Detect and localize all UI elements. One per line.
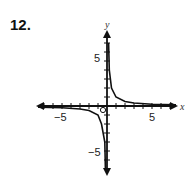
x-axis-label: x <box>179 101 185 112</box>
graph: x y −5 5 5 −5 <box>0 0 195 186</box>
curve-branch-left <box>38 107 105 169</box>
curve-branch-right <box>109 43 176 105</box>
x-tick-label-5: 5 <box>149 111 155 123</box>
y-axis-label: y <box>104 19 110 30</box>
open-circle-marker <box>100 107 105 112</box>
x-tick-label-neg5: −5 <box>54 111 67 123</box>
y-tick-label-5: 5 <box>94 52 100 64</box>
y-tick-label-neg5: −5 <box>88 146 101 158</box>
